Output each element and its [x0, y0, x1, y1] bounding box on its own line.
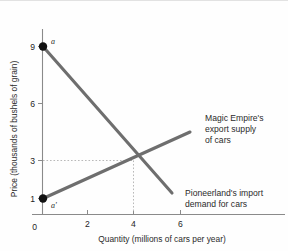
x-tick-label-6: 6 [178, 219, 183, 229]
y-tick-label-0: 0 [32, 222, 37, 232]
marker-label-a: a [51, 37, 55, 46]
y-axis-title: Price (thousands of bushels of grain) [9, 61, 19, 198]
x-tick-label-2: 2 [85, 219, 90, 229]
y-tick-label-1: 1 [30, 194, 35, 204]
marker-point-a-prime [39, 194, 47, 202]
y-tick-label-3: 3 [30, 156, 35, 166]
supply-annotation-line-3: of cars [205, 135, 231, 145]
y-tick-label-9: 9 [30, 42, 35, 52]
economics-chart: 9 6 3 1 0 2 4 6 a a' Magic Empire's expo… [0, 1, 288, 251]
x-axis-title: Quantity (millions of cars per year) [98, 234, 226, 244]
x-tick-label-4: 4 [131, 219, 136, 229]
supply-annotation-line-1: Magic Empire's [205, 113, 263, 123]
marker-point-a [39, 42, 47, 50]
supply-annotation-line-2: export supply [205, 124, 257, 134]
marker-label-a-prime: a' [51, 201, 57, 210]
chart-screenshot: 9 6 3 1 0 2 4 6 a a' Magic Empire's expo… [0, 0, 288, 251]
y-tick-label-6: 6 [30, 99, 35, 109]
demand-annotation-line-1: Pioneerland's import [185, 188, 264, 198]
demand-annotation-line-2: demand for cars [185, 199, 247, 209]
